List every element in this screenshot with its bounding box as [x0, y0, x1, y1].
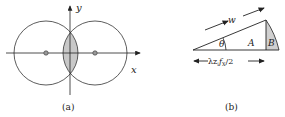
x-axis-label: x [131, 64, 137, 75]
y-axis-label: y [75, 2, 82, 13]
region-b-label: B [267, 38, 275, 48]
caption-a: (a) [62, 102, 74, 112]
w-label: w [228, 15, 236, 25]
w-arrow-left [205, 21, 228, 30]
caption-b: (b) [225, 102, 238, 112]
w-arrow-right [243, 8, 264, 16]
panel-b: w θ A B λzifX/2 (b) [193, 8, 279, 112]
left-center-dot [44, 51, 48, 55]
panel-a: y x (a) [6, 2, 140, 112]
base-label: λzifX/2 [208, 57, 233, 67]
region-a-label: A [247, 38, 255, 48]
right-center-dot [93, 51, 97, 55]
theta-label: θ [219, 39, 225, 49]
